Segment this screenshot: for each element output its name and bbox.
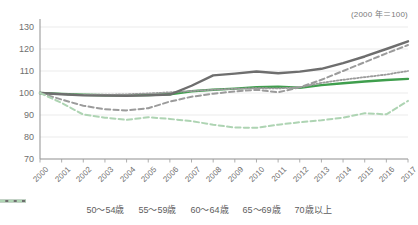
series-line-3 bbox=[40, 41, 408, 96]
legend-label: 60〜64歳 bbox=[190, 203, 228, 216]
legend-item[interactable]: 70歳以上 bbox=[295, 203, 332, 216]
legend-swatch bbox=[0, 196, 26, 206]
line-chart: (2000 年＝100) 708090100110120130 20002001… bbox=[0, 0, 418, 225]
legend-label: 50〜54歳 bbox=[86, 203, 124, 216]
legend-item[interactable]: 50〜54歳 bbox=[86, 203, 124, 216]
series-line-4 bbox=[40, 45, 408, 110]
legend-label: 70歳以上 bbox=[295, 203, 332, 216]
legend-label: 65〜69歳 bbox=[243, 203, 281, 216]
legend-item[interactable]: 55〜59歳 bbox=[138, 203, 176, 216]
chart-legend: 50〜54歳55〜59歳60〜64歳65〜69歳70歳以上 bbox=[0, 196, 418, 222]
plot-area bbox=[0, 0, 418, 225]
legend-item[interactable]: 65〜69歳 bbox=[243, 203, 281, 216]
legend-item[interactable]: 60〜64歳 bbox=[190, 203, 228, 216]
legend-label: 55〜59歳 bbox=[138, 203, 176, 216]
series-line-5 bbox=[40, 93, 408, 128]
